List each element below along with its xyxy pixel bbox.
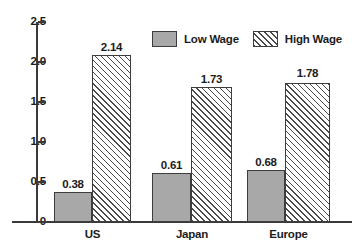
bar-rect [191,87,232,222]
bar-us-low-wage [54,22,92,222]
bar-value-us-low-wage: 0.38 [54,178,92,190]
legend-item-low-wage: Low Wage [152,31,239,47]
legend-swatch-icon [152,31,177,47]
bar-europe-low-wage [247,22,285,222]
bar-value-japan-high-wage: 1.73 [191,73,232,85]
bar-value-europe-high-wage: 1.78 [285,67,330,79]
bar-value-us-high-wage: 2.14 [92,41,131,53]
x-category-label-us: US [54,228,131,240]
bar-japan-high-wage [191,22,232,222]
chart-legend: Low Wage High Wage [152,31,342,47]
bar-europe-high-wage [285,22,330,222]
bar-japan-low-wage [152,22,191,222]
legend-item-high-wage: High Wage [253,31,342,47]
x-category-label-europe: Europe [247,228,330,240]
legend-label: High Wage [285,33,342,45]
bar-value-japan-low-wage: 0.61 [152,159,191,171]
legend-swatch-icon [253,31,278,47]
legend-label: Low Wage [184,33,239,45]
bar-rect [152,173,191,222]
bar-chart: 2.5 2.0 1.5 1.0 0.5 0 [0,0,363,251]
bar-rect [54,192,92,222]
bar-value-europe-low-wage: 0.68 [247,156,285,168]
bar-rect [247,170,285,222]
bar-rect [285,83,330,222]
bar-rect [92,55,131,222]
x-category-label-japan: Japan [152,228,232,240]
